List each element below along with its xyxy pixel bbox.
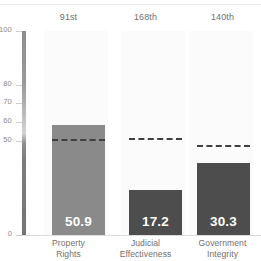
y-axis-ticks: 100 80 70 60 50 0 [0,31,22,235]
plot-area: 50.9 17.2 30.3 [30,31,261,235]
y-tick-label-80: 80 [3,79,12,88]
rank-label-judicial-effectiveness: 168th [107,8,184,26]
y-tick-label-50: 50 [3,135,12,144]
y-tick-label-60: 60 [3,116,12,125]
category-line-1: Property [30,238,107,249]
bar-property-rights[interactable]: 50.9 [52,125,105,235]
category-line-2: Effectiveness [107,249,184,260]
x-axis-baseline [22,235,261,236]
rank-label-property-rights: 91st [30,8,107,26]
top-divider [0,4,261,5]
category-label-property-rights: Property Rights [30,238,107,261]
rank-header-row: 91st 168th 140th [30,8,261,26]
y-tick-label-70: 70 [3,97,12,106]
category-label-row: Property Rights Judicial Effectiveness G… [30,238,261,261]
category-line-2: Rights [30,249,107,260]
category-label-government-integrity: Government Integrity [184,238,261,261]
rule-of-law-bar-chart: 91st 168th 140th 100 80 70 60 50 0 [0,0,261,261]
bar-government-integrity[interactable]: 30.3 [197,163,250,235]
bar-value-property-rights: 50.9 [52,214,105,229]
category-line-2: Integrity [184,249,261,260]
bar-value-judicial-effectiveness: 17.2 [129,214,182,229]
bar-value-government-integrity: 30.3 [197,214,250,229]
rank-label-government-integrity: 140th [184,8,261,26]
y-tick-label-0: 0 [8,229,12,238]
y-axis-gradient-spine [22,31,26,235]
category-line-1: Government [184,238,261,249]
bar-judicial-effectiveness[interactable]: 17.2 [129,190,182,235]
y-tick-label-100: 100 [0,25,12,34]
category-label-judicial-effectiveness: Judicial Effectiveness [107,238,184,261]
reference-line-judicial-effectiveness [129,138,182,140]
reference-line-government-integrity [197,145,250,147]
reference-line-property-rights [52,139,105,141]
category-line-1: Judicial [107,238,184,249]
